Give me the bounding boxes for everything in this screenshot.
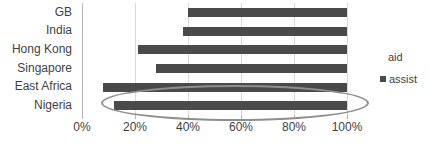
category-label-hong-kong: Hong Kong [12,43,74,56]
legend: aid assist [380,50,430,85]
bar [156,64,347,73]
value-axis-label: 20% [123,120,147,134]
category-label-nigeria: Nigeria [34,99,74,112]
bar [138,45,347,54]
category-axis-labels: GB India Hong Kong Singapore East Africa… [0,3,74,115]
value-axis-label: 80% [282,120,306,134]
tick-mark [347,115,348,119]
legend-item-assist[interactable]: assist [380,73,430,85]
value-axis-label: 0% [73,120,90,134]
tick-mark [135,115,136,119]
bar [188,8,347,17]
tick-mark [241,115,242,119]
bar [103,83,347,92]
legend-item-label: assist [389,73,417,85]
legend-title: aid [380,50,430,64]
value-axis-label: 60% [229,120,253,134]
bar-chart: GB India Hong Kong Singapore East Africa… [0,0,430,146]
category-label-singapore: Singapore [17,62,74,75]
value-axis-label: 40% [176,120,200,134]
category-label-gb: GB [55,6,74,19]
bar [183,27,347,36]
value-axis-labels: 0%20%40%60%80%100% [82,120,347,136]
category-label-east-africa: East Africa [15,80,74,93]
bar [114,101,347,110]
category-label-india: India [46,24,74,37]
legend-swatch-icon [380,76,386,82]
tick-mark [294,115,295,119]
tick-mark [188,115,189,119]
value-axis-label: 100% [332,120,363,134]
gridline [347,3,348,115]
plot-area [82,3,347,115]
bar-series-assist [82,3,347,115]
tick-mark [82,115,83,119]
